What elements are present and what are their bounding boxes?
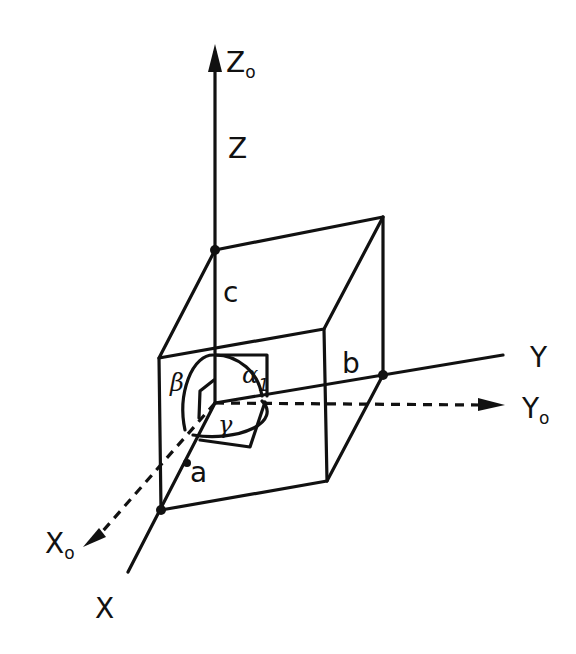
x-label: X: [95, 592, 114, 625]
vertex-a: [156, 505, 166, 515]
x0-label: Xo: [45, 527, 75, 563]
y0-arrowhead-icon: [478, 398, 505, 411]
y0-label: Yo: [521, 392, 550, 428]
alpha-label: α1: [242, 361, 269, 395]
x0-arrowhead-icon: [83, 528, 106, 547]
edge-c-label: c: [223, 276, 238, 309]
edge-b-label: b: [342, 347, 360, 380]
unit-cell-diagram: Zo Z c b a Y Yo Xo X α1 β γ: [0, 0, 576, 654]
z-label: Z: [228, 132, 247, 165]
gamma-label: γ: [218, 411, 233, 439]
y0-axis: [215, 398, 505, 411]
edge-a-label: a: [190, 456, 207, 489]
z0-arrowhead-icon: [208, 44, 222, 72]
vertex-b: [378, 370, 388, 380]
z0-label: Zo: [226, 46, 256, 82]
y-label: Y: [529, 341, 548, 374]
beta-label: β: [169, 369, 184, 397]
diagram-canvas: Zo Z c b a Y Yo Xo X α1 β γ: [0, 0, 576, 654]
vertex-c: [210, 245, 220, 255]
